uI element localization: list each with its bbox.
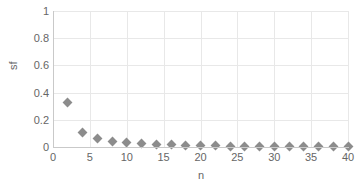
y-tick-label: 0.4 xyxy=(3,88,49,99)
gridline-vertical xyxy=(201,11,202,147)
x-axis-line xyxy=(53,147,349,148)
x-tick-label: 5 xyxy=(75,152,105,163)
y-axis-line xyxy=(53,11,54,148)
plot-area xyxy=(53,11,348,147)
scatter-chart: 00.20.40.60.81 sf n 0510152025303540 xyxy=(0,0,364,194)
x-tick-label: 30 xyxy=(259,152,289,163)
y-tick-label: 0.2 xyxy=(3,115,49,126)
y-tick-label: 0.8 xyxy=(3,33,49,44)
gridline-vertical xyxy=(127,11,128,147)
x-tick-label: 0 xyxy=(38,152,68,163)
x-tick-label: 40 xyxy=(333,152,363,163)
data-point-marker xyxy=(166,140,176,150)
data-point-marker xyxy=(78,128,88,138)
y-tick-label: 1 xyxy=(3,6,49,17)
data-point-marker xyxy=(107,136,117,146)
data-point-marker xyxy=(196,141,206,151)
gridline-vertical xyxy=(348,11,349,147)
x-tick-label: 20 xyxy=(186,152,216,163)
gridline-vertical xyxy=(90,11,91,147)
x-tick-label: 10 xyxy=(112,152,142,163)
x-axis-title: n xyxy=(53,170,349,181)
data-point-marker xyxy=(92,134,102,144)
gridline-vertical xyxy=(237,11,238,147)
data-point-marker xyxy=(210,141,220,151)
y-axis-title: sf xyxy=(8,61,19,70)
gridline-vertical xyxy=(311,11,312,147)
gridline-vertical xyxy=(274,11,275,147)
x-tick-label: 35 xyxy=(296,152,326,163)
data-point-marker xyxy=(181,140,191,150)
x-tick-label: 25 xyxy=(222,152,252,163)
data-point-marker xyxy=(63,97,73,107)
gridline-vertical xyxy=(164,11,165,147)
x-tick-label: 15 xyxy=(149,152,179,163)
y-axis-tick-labels: 00.20.40.60.81 xyxy=(0,0,49,194)
